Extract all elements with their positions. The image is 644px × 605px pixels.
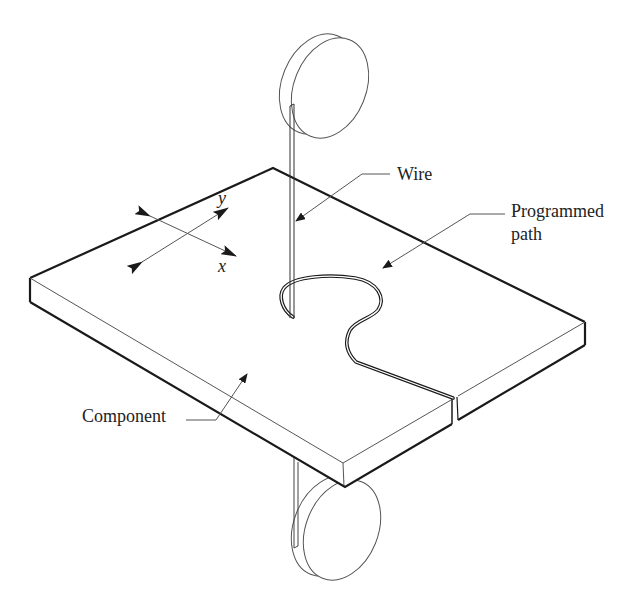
programmed-path-label-line1: Programmed [511, 201, 604, 221]
programmed-path-label-line2: path [511, 224, 542, 244]
component-plate [30, 168, 585, 487]
wire-label: Wire [397, 164, 432, 184]
x-axis-label: x [217, 256, 226, 276]
component-label: Component [82, 406, 166, 426]
top-pulley [265, 22, 383, 149]
y-axis-label: y [216, 188, 226, 208]
wire-edm-diagram: y x Wire Programmed path Component [0, 0, 644, 605]
bottom-pulley [277, 464, 395, 591]
